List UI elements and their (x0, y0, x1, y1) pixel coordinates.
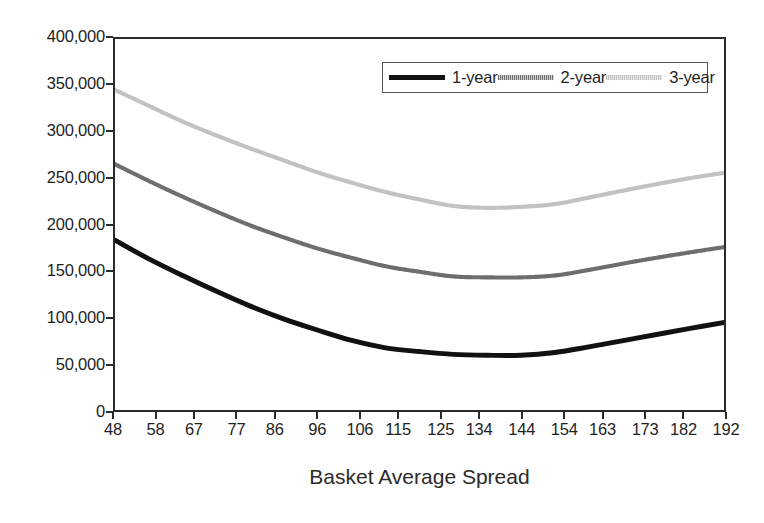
x-tick-mark (563, 412, 565, 419)
legend-label-3-year: 3-year (669, 69, 715, 86)
series-line-1-year (115, 240, 724, 355)
x-tick-mark (235, 412, 237, 419)
series-canvas (115, 39, 724, 410)
x-tick-mark (602, 412, 604, 419)
legend-entry-1-year: 1-year (389, 69, 498, 86)
legend-label-1-year: 1-year (452, 69, 498, 86)
legend-label-2-year: 2-year (561, 69, 607, 86)
x-tick-mark (682, 412, 684, 419)
x-tick-mark (440, 412, 442, 419)
x-axis-title: Basket Average Spread (113, 465, 726, 489)
line-chart: 050,000100,000150,000200,000250,000300,0… (0, 0, 764, 523)
legend-swatch-2-year (498, 75, 554, 80)
x-tick-mark (397, 412, 399, 419)
x-tick-mark (316, 412, 318, 419)
x-tick-mark (359, 412, 361, 419)
x-tick-mark (521, 412, 523, 419)
legend-swatch-1-year (389, 75, 445, 80)
series-line-2-year (115, 164, 724, 277)
series-line-3-year (115, 90, 724, 208)
x-tick-mark (725, 412, 727, 419)
x-tick-mark (193, 412, 195, 419)
x-tick-mark (478, 412, 480, 419)
x-tick-mark (155, 412, 157, 419)
legend-entry-2-year: 2-year (498, 69, 607, 86)
legend: 1-year 2-year 3-year (382, 62, 708, 93)
x-tick-mark (644, 412, 646, 419)
x-tick-mark (274, 412, 276, 419)
legend-swatch-3-year (606, 75, 662, 80)
legend-entry-3-year: 3-year (606, 69, 715, 86)
x-tick-label: 192 (696, 421, 756, 438)
x-tick-mark (112, 412, 114, 419)
plot-area (113, 37, 726, 412)
